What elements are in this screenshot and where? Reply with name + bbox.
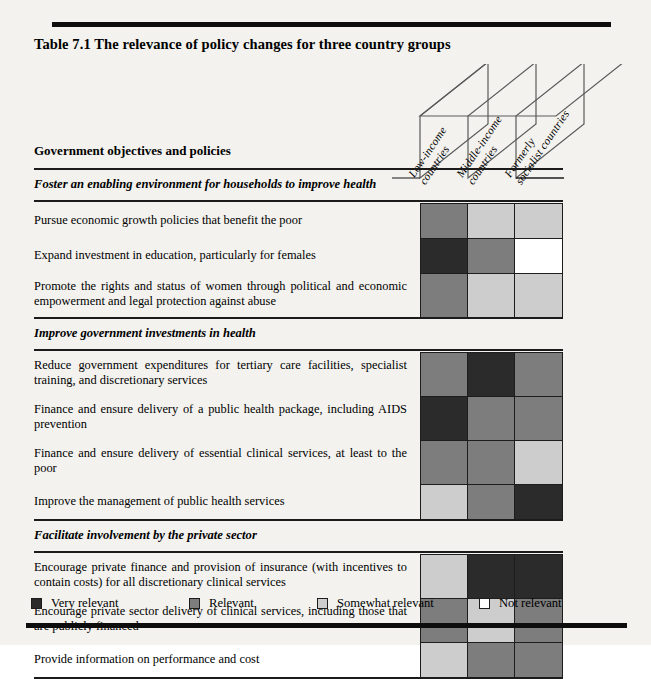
top-rule [52, 22, 611, 27]
relevance-cell [421, 397, 468, 441]
relevance-matrix [420, 352, 563, 519]
table-rule [34, 200, 563, 202]
relevance-cell [421, 555, 468, 599]
legend: Very relevant Relevant Somewhat relevant… [31, 596, 621, 616]
section-heading: Foster an enabling environment for house… [34, 177, 376, 192]
relevance-cell [515, 441, 562, 485]
row-label: Improve the management of public health … [34, 494, 407, 509]
relevance-cell [515, 353, 562, 397]
legend-swatch-none [479, 598, 490, 609]
relevance-cell [421, 441, 468, 485]
row-label: Finance and ensure delivery of essential… [34, 446, 407, 476]
relevance-cell [468, 204, 515, 239]
relevance-cell [468, 239, 515, 274]
legend-label-very: Very relevant [51, 596, 118, 611]
row-label: Encourage private finance and provision … [34, 560, 407, 590]
row-label: Reduce government expenditures for terti… [34, 358, 407, 388]
row-label: Promote the rights and status of women t… [34, 279, 407, 309]
legend-item-somewhat: Somewhat relevant [317, 596, 434, 611]
table-rule [34, 551, 563, 553]
relevance-cell [515, 397, 562, 441]
relevance-cell [421, 204, 468, 239]
row-label: Expand investment in education, particul… [34, 248, 407, 263]
relevance-cell [515, 204, 562, 239]
legend-label-none: Not relevant [499, 596, 562, 611]
legend-label-somewhat: Somewhat relevant [337, 596, 434, 611]
relevance-cell [468, 485, 515, 520]
relevance-cell [515, 555, 562, 599]
relevance-cell [421, 485, 468, 520]
legend-item-very: Very relevant [31, 596, 118, 611]
relevance-cell [468, 274, 515, 318]
bottom-rule [26, 623, 627, 628]
legend-swatch-somewhat [317, 598, 328, 609]
legend-item-none: Not relevant [479, 596, 562, 611]
stub-header: Government objectives and policies [34, 143, 231, 159]
page-title: Table 7.1 The relevance of policy change… [34, 36, 614, 53]
relevance-cell [468, 397, 515, 441]
table-rule [34, 317, 563, 319]
relevance-cell [421, 239, 468, 274]
relevance-cell [421, 353, 468, 397]
section-heading: Improve government investments in health [34, 326, 256, 341]
table-rule [34, 349, 563, 351]
table-rule [34, 168, 563, 170]
relevance-matrix [420, 203, 563, 317]
legend-swatch-very [31, 598, 42, 609]
relevance-cell [515, 274, 562, 318]
legend-label-relevant: Relevant [209, 596, 254, 611]
legend-item-relevant: Relevant [189, 596, 254, 611]
relevance-cell [468, 555, 515, 599]
section-heading: Facilitate involvement by the private se… [34, 528, 257, 543]
relevance-cell [515, 485, 562, 520]
relevance-cell [468, 441, 515, 485]
legend-swatch-relevant [189, 598, 200, 609]
row-label: Pursue economic growth policies that ben… [34, 213, 407, 228]
row-label: Finance and ensure delivery of a public … [34, 402, 407, 432]
relevance-cell [468, 643, 515, 678]
relevance-cell [515, 643, 562, 678]
relevance-cell [515, 239, 562, 274]
relevance-cell [421, 643, 468, 678]
relevance-cell [468, 353, 515, 397]
row-label: Provide information on performance and c… [34, 652, 407, 667]
table-rule [34, 519, 563, 521]
relevance-cell [421, 274, 468, 318]
